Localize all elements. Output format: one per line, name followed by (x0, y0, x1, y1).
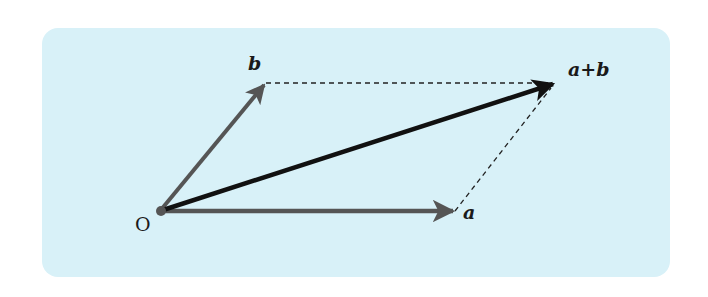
vector-sum-arrow (160, 84, 553, 211)
vector-diagram (0, 0, 708, 297)
vector-sum-label: a+b (568, 60, 610, 79)
origin-point (156, 206, 166, 216)
dashed-line-right (455, 88, 551, 211)
vector-b-label: b (248, 54, 261, 73)
origin-label: O (135, 215, 151, 234)
vector-a-label: a (463, 203, 475, 222)
